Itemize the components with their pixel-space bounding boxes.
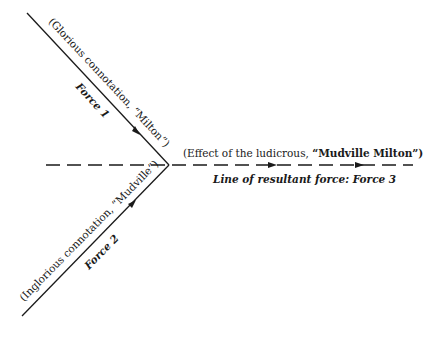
force-3-resultant-label: Line of resultant force: Force 3 — [212, 173, 396, 185]
force-3-effect-prefix: (Effect of the ludicrous, — [183, 147, 312, 159]
force-3-effect-label: (Effect of the ludicrous, “Mudville Milt… — [183, 147, 423, 159]
force-1-connotation-label: (Glorious connotation, “Milton”) — [47, 15, 173, 149]
force-2-line — [22, 165, 169, 316]
force-3-arrow-icon-2 — [355, 162, 364, 168]
force-2-connotation-label: (Inglorious connotation, “Mudville”) — [17, 158, 161, 304]
force-3-arrow-icon — [268, 162, 277, 168]
force-diagram: (Glorious connotation, “Milton”) Force 1… — [0, 0, 431, 340]
force-1-line — [27, 13, 169, 165]
force-3-effect-bold: “Mudville Milton”) — [312, 147, 423, 159]
